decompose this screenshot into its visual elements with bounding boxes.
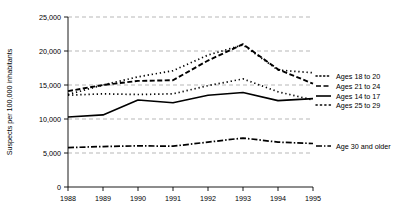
y-tick-label-20000: 20,000 <box>39 47 61 56</box>
series-layer <box>68 44 313 147</box>
x-tick-label-1990: 1990 <box>130 194 146 203</box>
chart-canvas: 25,000 20,000 15,000 10,000 5,000 0 Susp… <box>0 0 406 220</box>
y-tick-label-15000: 15,000 <box>39 81 61 90</box>
y-tick-label-0: 0 <box>57 183 61 192</box>
line-chart: 25,000 20,000 15,000 10,000 5,000 0 Susp… <box>0 0 406 220</box>
x-tick-label-1992: 1992 <box>200 194 216 203</box>
y-tick-label-25000: 25,000 <box>39 13 61 22</box>
legend-item-ages-14-to-17: Ages 14 to 17 <box>316 92 380 101</box>
x-tick-label-1988: 1988 <box>60 194 76 203</box>
x-axis: 1988 1989 1990 1991 1992 1993 1994 1995 <box>60 187 321 203</box>
x-tick-label-1993: 1993 <box>235 194 251 203</box>
series-line-ages-18-to-20 <box>68 45 313 95</box>
legend-item-ages-18-to-20: Ages 18 to 20 <box>316 72 380 81</box>
y-tick-label-5000: 5,000 <box>43 149 61 158</box>
legend-item-ages-21-to-24: Ages 21 to 24 <box>316 82 380 91</box>
series-line-ages-25-to-29 <box>68 79 313 100</box>
series-line-ages-14-to-17 <box>68 92 313 116</box>
y-tick-label-10000: 10,000 <box>39 115 61 124</box>
x-tick-label-1994: 1994 <box>270 194 286 203</box>
x-tick-label-1995: 1995 <box>305 194 321 203</box>
legend-label-ages-14-to-17: Ages 14 to 17 <box>336 92 380 101</box>
legend-item-age-30-and-older: Age 30 and older <box>316 142 391 151</box>
legend-item-ages-25-to-29: Ages 25 to 29 <box>316 101 380 110</box>
legend-label-ages-18-to-20: Ages 18 to 20 <box>336 72 380 81</box>
legend-label-ages-25-to-29: Ages 25 to 29 <box>336 101 380 110</box>
x-tick-label-1991: 1991 <box>165 194 181 203</box>
legend: Ages 18 to 20 Ages 21 to 24 Ages 14 to 1… <box>316 72 391 151</box>
series-line-age-30-and-older <box>68 138 313 148</box>
legend-label-age-30-and-older: Age 30 and older <box>336 142 391 151</box>
y-axis: 25,000 20,000 15,000 10,000 5,000 0 Susp… <box>5 13 68 192</box>
legend-label-ages-21-to-24: Ages 21 to 24 <box>336 82 380 91</box>
y-axis-title: Suspects per 100,000 inhabitants <box>5 48 14 155</box>
x-tick-label-1989: 1989 <box>95 194 111 203</box>
